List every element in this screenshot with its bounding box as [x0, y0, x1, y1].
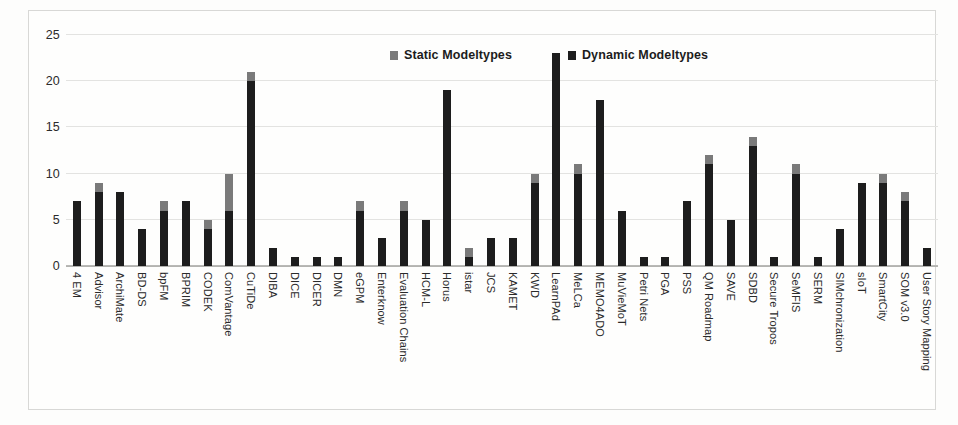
bar-slot[interactable]	[611, 35, 633, 266]
bar-segment-dynamic[interactable]	[858, 183, 866, 266]
bar-segment-dynamic[interactable]	[574, 174, 582, 266]
bar-slot[interactable]	[175, 35, 197, 266]
bar-segment-dynamic[interactable]	[552, 53, 560, 266]
bar-segment-static[interactable]	[574, 164, 582, 173]
bar-slot[interactable]	[131, 35, 153, 266]
bar-stack[interactable]	[836, 229, 844, 266]
bar-slot[interactable]	[393, 35, 415, 266]
bar-slot[interactable]	[829, 35, 851, 266]
bar-segment-dynamic[interactable]	[531, 183, 539, 266]
bar-segment-dynamic[interactable]	[879, 183, 887, 266]
bar-segment-dynamic[interactable]	[182, 201, 190, 266]
bar-segment-dynamic[interactable]	[225, 211, 233, 266]
bar-stack[interactable]	[879, 174, 887, 266]
bar-segment-static[interactable]	[792, 164, 800, 173]
bar-segment-static[interactable]	[531, 174, 539, 183]
bar-segment-static[interactable]	[400, 201, 408, 210]
bar-segment-static[interactable]	[901, 192, 909, 201]
bar-stack[interactable]	[661, 257, 669, 266]
bar-slot[interactable]	[262, 35, 284, 266]
bar-stack[interactable]	[465, 248, 473, 266]
bar-segment-dynamic[interactable]	[95, 192, 103, 266]
bar-stack[interactable]	[923, 248, 931, 266]
bar-slot[interactable]	[437, 35, 459, 266]
bar-slot[interactable]	[371, 35, 393, 266]
bar-segment-dynamic[interactable]	[509, 238, 517, 266]
bar-segment-dynamic[interactable]	[749, 146, 757, 266]
bar-stack[interactable]	[552, 53, 560, 266]
bar-slot[interactable]	[240, 35, 262, 266]
bar-segment-dynamic[interactable]	[422, 220, 430, 266]
bar-segment-static[interactable]	[204, 220, 212, 229]
bar-slot[interactable]	[676, 35, 698, 266]
bar-segment-dynamic[interactable]	[291, 257, 299, 266]
bar-slot[interactable]	[655, 35, 677, 266]
bar-stack[interactable]	[618, 211, 626, 266]
bar-stack[interactable]	[378, 238, 386, 266]
bar-slot[interactable]	[698, 35, 720, 266]
bar-slot[interactable]	[546, 35, 568, 266]
bar-segment-dynamic[interactable]	[770, 257, 778, 266]
bar-stack[interactable]	[509, 238, 517, 266]
bar-slot[interactable]	[458, 35, 480, 266]
bar-stack[interactable]	[574, 164, 582, 266]
bar-segment-dynamic[interactable]	[443, 90, 451, 266]
bar-slot[interactable]	[720, 35, 742, 266]
bar-segment-dynamic[interactable]	[683, 201, 691, 266]
bar-segment-dynamic[interactable]	[596, 100, 604, 266]
bar-slot[interactable]	[524, 35, 546, 266]
bar-stack[interactable]	[400, 201, 408, 266]
bar-segment-dynamic[interactable]	[901, 201, 909, 266]
bar-segment-dynamic[interactable]	[247, 81, 255, 266]
bar-slot[interactable]	[567, 35, 589, 266]
bar-slot[interactable]	[66, 35, 88, 266]
bar-stack[interactable]	[204, 220, 212, 266]
bar-stack[interactable]	[73, 201, 81, 266]
bar-segment-dynamic[interactable]	[923, 248, 931, 266]
bar-slot[interactable]	[349, 35, 371, 266]
bar-slot[interactable]	[916, 35, 938, 266]
bar-segment-dynamic[interactable]	[269, 248, 277, 266]
bar-segment-dynamic[interactable]	[487, 238, 495, 266]
bar-segment-dynamic[interactable]	[160, 211, 168, 266]
bar-slot[interactable]	[328, 35, 350, 266]
bar-slot[interactable]	[633, 35, 655, 266]
bar-stack[interactable]	[356, 201, 364, 266]
bar-stack[interactable]	[640, 257, 648, 266]
bar-slot[interactable]	[894, 35, 916, 266]
bar-stack[interactable]	[770, 257, 778, 266]
bar-stack[interactable]	[138, 229, 146, 266]
bar-segment-static[interactable]	[356, 201, 364, 210]
bar-stack[interactable]	[225, 174, 233, 266]
bar-slot[interactable]	[764, 35, 786, 266]
bar-segment-static[interactable]	[879, 174, 887, 183]
bar-stack[interactable]	[596, 100, 604, 266]
bar-segment-dynamic[interactable]	[465, 257, 473, 266]
bar-stack[interactable]	[116, 192, 124, 266]
bar-stack[interactable]	[334, 257, 342, 266]
bar-segment-static[interactable]	[705, 155, 713, 164]
bar-stack[interactable]	[95, 183, 103, 266]
bar-segment-static[interactable]	[465, 248, 473, 257]
bar-slot[interactable]	[872, 35, 894, 266]
bar-segment-dynamic[interactable]	[334, 257, 342, 266]
bar-segment-dynamic[interactable]	[73, 201, 81, 266]
bar-stack[interactable]	[531, 174, 539, 266]
bar-slot[interactable]	[88, 35, 110, 266]
bar-slot[interactable]	[851, 35, 873, 266]
bar-segment-dynamic[interactable]	[378, 238, 386, 266]
bar-segment-dynamic[interactable]	[836, 229, 844, 266]
bar-slot[interactable]	[785, 35, 807, 266]
bar-segment-dynamic[interactable]	[116, 192, 124, 266]
bar-slot[interactable]	[219, 35, 241, 266]
bar-slot[interactable]	[197, 35, 219, 266]
bar-segment-dynamic[interactable]	[705, 164, 713, 266]
bar-stack[interactable]	[313, 257, 321, 266]
bar-stack[interactable]	[792, 164, 800, 266]
bar-stack[interactable]	[901, 192, 909, 266]
bar-segment-dynamic[interactable]	[313, 257, 321, 266]
bar-stack[interactable]	[487, 238, 495, 266]
bar-stack[interactable]	[269, 248, 277, 266]
bar-slot[interactable]	[807, 35, 829, 266]
bar-stack[interactable]	[182, 201, 190, 266]
